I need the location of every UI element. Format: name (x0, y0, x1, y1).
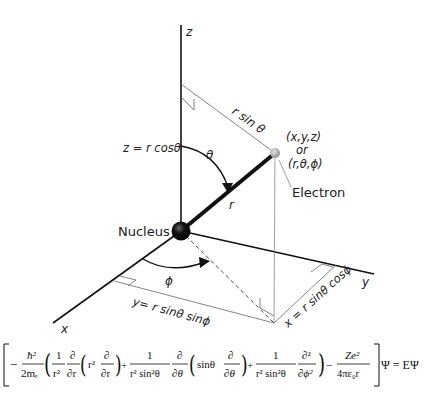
z-equation-label: z = r cosθ (122, 141, 181, 155)
r2-sin2-theta-1: r² sin²θ (130, 368, 160, 379)
right-angle-marker-proj (260, 298, 274, 316)
right-bracket (374, 344, 379, 386)
psi-equals-e-psi: Ψ = EΨ (381, 358, 419, 372)
paren-close-1: ) (318, 349, 325, 379)
r-label: r (229, 198, 235, 212)
theta-label: θ (206, 148, 214, 162)
spherical-coordinates-diagram: z y x r sin θ z = r cosθ θ r ϕ (x,y,z) o… (0, 0, 445, 405)
plus-sign-1: + (121, 359, 127, 371)
partial-theta-2: ∂θ (224, 367, 235, 379)
partial-theta-1: ∂θ (172, 367, 183, 379)
partial-2: ∂ (104, 349, 109, 361)
plus-sign-2: + (247, 359, 253, 371)
partial-1: ∂ (70, 349, 75, 361)
or-label: or (296, 143, 309, 157)
r-sin-theta-label: r sin θ (229, 104, 268, 137)
r2-sin2-theta-2: r² sin²θ (256, 368, 286, 379)
two-m-e: 2mₑ (21, 367, 38, 379)
sin-theta: sinθ (197, 358, 215, 370)
r-squared-1: r² (53, 367, 61, 379)
electron-sphere (270, 148, 280, 158)
y-equation-label: y= r sinθ sinϕ (130, 294, 212, 329)
vertical-projection-line (274, 153, 275, 323)
partial-r-2: ∂r (101, 367, 110, 379)
phi-arc (143, 259, 205, 268)
one-3: 1 (273, 349, 279, 361)
hbar-squared: ħ² (27, 349, 37, 361)
projection-dashed-line (181, 231, 274, 323)
paren-open-2: ( (80, 351, 87, 379)
minus-sign-1: − (10, 357, 17, 372)
right-angle-marker-top (181, 97, 194, 110)
schrodinger-equation: − ħ² 2mₑ ( 1 r² ∂ ∂r ( r² ∂ ∂r ) + 1 r² … (4, 344, 419, 386)
partial-squared: ∂² (302, 349, 311, 361)
z-axis-label: z (185, 25, 193, 39)
point-spherical-label: (r,θ,ϕ) (288, 157, 323, 171)
electron-label: Electron (292, 185, 345, 200)
nucleus-sphere (172, 222, 191, 241)
phi-label: ϕ (165, 274, 173, 288)
one-2: 1 (147, 349, 153, 361)
nucleus-label: Nucleus (118, 224, 170, 239)
point-cartesian-label: (x,y,z) (286, 130, 321, 144)
partial-phi-squared: ∂ϕ² (298, 367, 313, 379)
paren-open-3: ( (189, 351, 196, 379)
paren-open-1: ( (44, 349, 51, 379)
one-1: 1 (56, 349, 62, 361)
x-equation-label: x = r sinθ cosϕ (280, 262, 355, 331)
left-bracket (4, 344, 9, 386)
y-axis-label: y (361, 275, 370, 289)
partial-4: ∂ (228, 349, 233, 361)
theta-arc (181, 146, 228, 187)
partial-r-1: ∂r (67, 367, 76, 379)
partial-3: ∂ (177, 349, 182, 361)
x-axis-label: x (60, 322, 69, 336)
r-squared-2: r² (88, 358, 96, 370)
r-sin-theta-line (181, 84, 275, 153)
four-pi-eps0-r: 4πε₀r (337, 368, 360, 379)
z-e-squared: Ze² (345, 349, 360, 361)
minus-sign-2: − (326, 358, 333, 372)
